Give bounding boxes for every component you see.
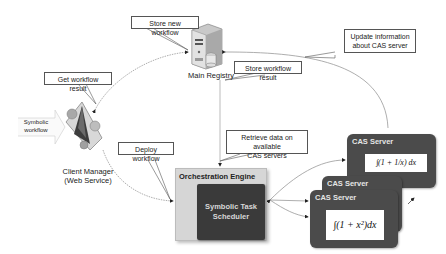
- server-icon: [188, 22, 228, 70]
- cas-server-1-formula: ∫(1 + 1/x) dx: [365, 154, 427, 172]
- callout-store-new-workflow: Store new workflow: [131, 16, 199, 29]
- callout-get-workflow-result: Get workflow result: [44, 72, 112, 85]
- cas-server-1-title: CAS Server: [352, 137, 393, 146]
- scheduler-line2: Scheduler: [197, 212, 265, 222]
- callout-update-line1: Update information: [349, 32, 411, 41]
- cas-server-3: CAS Server ∫(1 + x²)dx: [310, 190, 398, 248]
- callout-store-workflow-result: Store workflow result: [234, 61, 302, 74]
- link-orch-cas3: [270, 200, 308, 217]
- link-orch-cas2: [270, 200, 308, 201]
- client-manager-line1: Client Manager: [58, 167, 118, 176]
- orchestration-engine-title: Orchestration Engine: [179, 172, 255, 181]
- callout-deploy-workflow: Deploy workflow: [118, 142, 174, 155]
- cas-server-3-formula: ∫(1 + x²)dx: [326, 210, 384, 240]
- orchestration-engine: Orchestration Engine Symbolic Task Sched…: [175, 168, 267, 241]
- scheduler-line1: Symbolic Task: [197, 202, 265, 212]
- symbolic-task-scheduler: Symbolic Task Scheduler: [197, 184, 265, 240]
- pointer-deploy: [148, 160, 170, 199]
- symbolic-workflow-label: Symbolic workflow: [18, 118, 54, 134]
- client-manager-label: Client Manager (Web Service): [58, 167, 118, 185]
- cas-server-2-title: CAS Server: [327, 179, 368, 188]
- callout-retrieve-line1: Retrieve data on available: [231, 133, 303, 151]
- more-indicator-icon: [408, 198, 414, 204]
- scheduler-label: Symbolic Task Scheduler: [197, 202, 265, 222]
- callout-retrieve-line2: CAS servers: [231, 151, 303, 160]
- callout-update-line2: about CAS server: [349, 41, 411, 50]
- pointer-update: [305, 52, 335, 58]
- callout-update-information: Update information about CAS server: [344, 29, 416, 53]
- callout-retrieve-data: Retrieve data on available CAS servers: [226, 130, 308, 154]
- main-registry-label: Main Registry: [186, 71, 236, 80]
- symbolic-workflow-line1: Symbolic: [18, 118, 54, 126]
- symbolic-workflow-line2: workflow: [18, 126, 54, 134]
- cas-server-3-title: CAS Server: [315, 193, 356, 202]
- client-manager-line2: (Web Service): [58, 176, 118, 185]
- client-manager-icon: [60, 98, 110, 153]
